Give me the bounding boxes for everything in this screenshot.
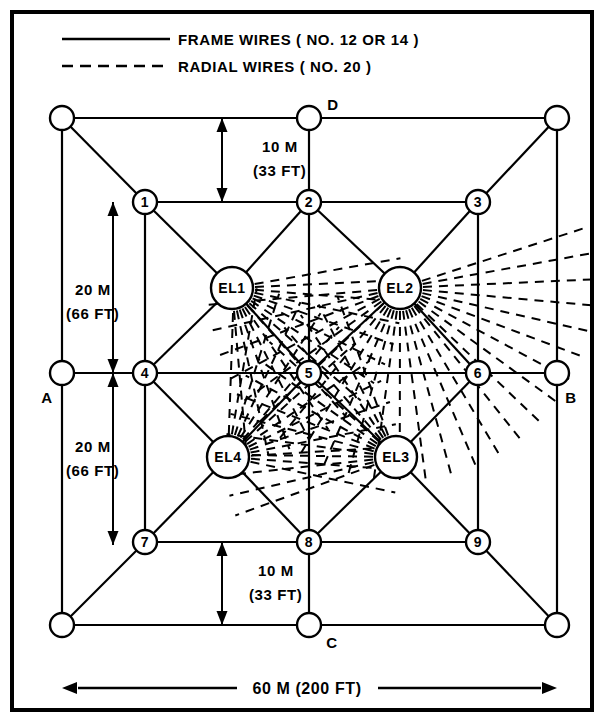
figure-container: FRAME WIRES ( NO. 12 OR 14 )RADIAL WIRES… [0,0,604,722]
frame-wire [62,542,145,625]
legend-label-1: RADIAL WIRES ( NO. 20 ) [178,58,372,75]
node-9-label: 9 [474,534,482,550]
arrow-head [217,611,228,625]
node-6-label: 6 [474,365,482,381]
frame-wire [62,118,145,202]
dim-upper-span-secondary: (66 FT) [66,305,119,322]
radial-wire [422,296,584,357]
radial-wire [423,290,595,306]
corner-label-B: B [565,389,576,406]
radial-wire [409,309,477,468]
node-el2-label: EL2 [386,280,413,296]
radial-wire [240,310,290,449]
radial-wire [255,258,401,284]
dim-bottom-gap-value: 10 M [258,562,294,579]
node-7-label: 7 [141,534,149,550]
radial-wire [422,293,591,332]
frame-wire [478,542,557,625]
arrow-head [108,359,119,373]
anchor-b[interactable] [545,361,569,385]
corner-label-D: D [327,96,338,113]
node-el1-label: EL1 [218,280,245,296]
node-el4-label: EL4 [214,449,241,465]
dim-upper-span-value: 20 M [75,281,111,298]
arrow-head [108,373,119,387]
radial-wire [419,302,559,404]
corner-sw[interactable] [50,613,74,637]
node-5-label: 5 [305,365,313,381]
arrow-head [217,118,228,132]
anchor-d[interactable] [297,106,321,130]
dim-overall-value: 60 M (200 FT) [252,680,361,697]
arrow-head [217,542,228,556]
anchor-a[interactable] [50,361,74,385]
dim-top-gap-value: 10 M [262,138,298,155]
node-3-label: 3 [474,194,482,210]
node-2-label: 2 [305,194,313,210]
radial-wire [258,304,383,423]
wire-layout-diagram: FRAME WIRES ( NO. 12 OR 14 )RADIAL WIRES… [0,0,604,722]
arrow-head [108,531,119,545]
dim-lower-span-secondary: (66 FT) [66,462,119,479]
corner-label-C: C [326,634,337,651]
corner-nw[interactable] [50,106,74,130]
dim-top-gap-secondary: (33 FT) [253,162,306,179]
node-el3-label: EL3 [382,449,409,465]
corner-se[interactable] [545,613,569,637]
node-8-label: 8 [305,534,313,550]
frame-wire [478,118,557,202]
node-4-label: 4 [141,365,149,381]
radial-wire [423,253,593,284]
arrow-head [108,202,119,216]
anchor-c[interactable] [297,613,321,637]
arrow-head-left [62,682,77,694]
legend-label-0: FRAME WIRES ( NO. 12 OR 14 ) [178,31,419,48]
dim-lower-span-value: 20 M [75,438,111,455]
radial-wire [245,343,355,442]
arrow-head-right [542,682,557,694]
node-1-label: 1 [141,194,149,210]
dim-bottom-gap-secondary: (33 FT) [249,586,302,603]
corner-label-A: A [41,389,52,406]
arrow-head [217,188,228,202]
radial-wire [423,279,596,287]
corner-ne[interactable] [545,106,569,130]
